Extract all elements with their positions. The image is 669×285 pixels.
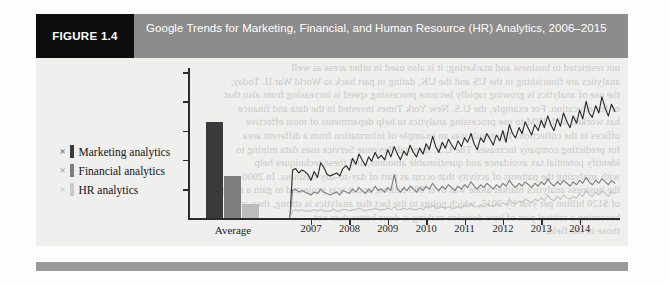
x-axis-label: 2014 bbox=[563, 223, 597, 234]
bar-financial-analytics bbox=[224, 176, 241, 218]
legend-label-marketing: Marketing analytics bbox=[79, 146, 171, 158]
bar-marketing-analytics bbox=[206, 122, 223, 219]
legend-swatch-marketing bbox=[70, 145, 74, 158]
x-axis-label: 2009 bbox=[371, 223, 405, 234]
y-axis bbox=[188, 68, 190, 220]
legend-item-hr-analytics: × HR analytics bbox=[56, 180, 170, 199]
y-axis-tick bbox=[183, 189, 190, 191]
legend-swatch-financial bbox=[70, 164, 74, 177]
legend-x-marker-icon: × bbox=[56, 165, 69, 176]
x-axis-label: 2010 bbox=[409, 223, 443, 234]
x-axis bbox=[188, 218, 620, 220]
x-axis-label: 2013 bbox=[524, 223, 558, 234]
line-marketing-analytics bbox=[290, 97, 615, 219]
legend-swatch-hr bbox=[70, 183, 74, 196]
line-financial-analytics bbox=[290, 174, 615, 218]
figure-page: not restricted to business and marketing… bbox=[0, 0, 669, 285]
line-hr-analytics bbox=[290, 191, 615, 219]
legend-item-financial-analytics: × Financial analytics bbox=[56, 161, 170, 180]
figure-header-band: FIGURE 1.4 Google Trends for Marketing, … bbox=[36, 14, 628, 58]
y-axis-tick bbox=[183, 131, 190, 133]
figure-title: Google Trends for Marketing, Financial, … bbox=[146, 21, 616, 36]
legend-x-marker-icon: × bbox=[56, 146, 69, 157]
legend-x-marker-icon: × bbox=[56, 184, 69, 195]
figure-chart-area: × Marketing analytics × Financial analyt… bbox=[36, 58, 628, 246]
chart-plot: Average 20072008200920102011201220132014 bbox=[188, 68, 620, 236]
y-axis-tick bbox=[183, 101, 190, 103]
y-axis-tick bbox=[183, 160, 190, 162]
figure-number-label: FIGURE 1.4 bbox=[52, 30, 118, 42]
x-axis-label: 2012 bbox=[486, 223, 520, 234]
x-axis-label: 2008 bbox=[332, 223, 366, 234]
chart-legend: × Marketing analytics × Financial analyt… bbox=[56, 142, 170, 199]
figure-footer-band bbox=[36, 262, 628, 271]
legend-label-hr: HR analytics bbox=[79, 184, 139, 196]
bar-hr-analytics bbox=[242, 204, 259, 219]
figure-number-block: FIGURE 1.4 bbox=[36, 14, 134, 58]
legend-label-financial: Financial analytics bbox=[79, 165, 166, 177]
bar-category-label: Average bbox=[198, 224, 268, 236]
x-axis-label: 2011 bbox=[448, 223, 482, 234]
y-axis-tick bbox=[183, 72, 190, 74]
legend-item-marketing-analytics: × Marketing analytics bbox=[56, 142, 170, 161]
x-axis-label: 2007 bbox=[294, 223, 328, 234]
